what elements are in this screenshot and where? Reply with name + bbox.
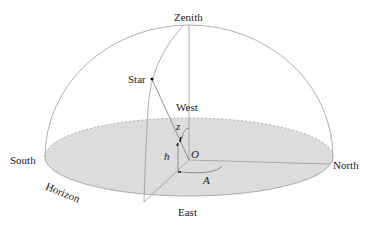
zenith-distance-label: z xyxy=(176,121,180,132)
east-label: East xyxy=(178,207,197,218)
celestial-sphere-diagram: Zenith Star West South North East Horizo… xyxy=(0,0,372,231)
star-point xyxy=(150,77,153,80)
zenith-distance-arrow xyxy=(180,137,181,142)
star-label: Star xyxy=(128,74,146,85)
altitude-label: h xyxy=(164,151,170,162)
west-label: West xyxy=(176,102,198,113)
zenith-label: Zenith xyxy=(174,12,203,23)
azimuth-label: A xyxy=(203,175,210,186)
altitude-arrow xyxy=(177,143,178,146)
north-label: North xyxy=(333,160,359,171)
south-label: South xyxy=(10,155,36,166)
origin-label: O xyxy=(191,149,199,160)
